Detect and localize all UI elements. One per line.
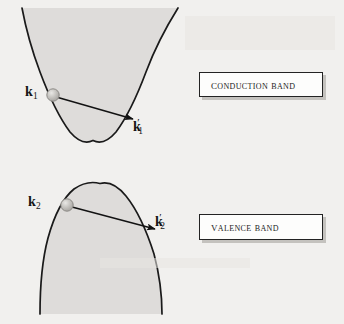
k2-subscript: 2 bbox=[36, 201, 41, 211]
legend-conduction-band: Conduction band bbox=[199, 72, 323, 97]
band-diagram-figure bbox=[0, 0, 344, 324]
label-k1: k1 bbox=[25, 83, 38, 99]
k2-state-marker bbox=[61, 199, 73, 211]
k1-symbol: k bbox=[25, 84, 33, 99]
label-k2: k2 bbox=[28, 193, 41, 209]
conduction-band-group bbox=[22, 8, 178, 142]
k2-prime-subscript: 2 bbox=[160, 221, 165, 231]
k1-subscript: 1 bbox=[33, 91, 38, 101]
k1-prime-subscript: 1 bbox=[138, 126, 143, 136]
k2-symbol: k bbox=[28, 194, 36, 209]
valence-band-group bbox=[40, 183, 162, 314]
legend-conduction-band-label: Conduction band bbox=[211, 77, 295, 93]
label-k1-prime: k′1 bbox=[133, 118, 148, 134]
label-k2-prime: k′2 bbox=[155, 213, 170, 229]
k1-state-marker bbox=[47, 89, 59, 101]
valence-band-fill bbox=[40, 183, 162, 314]
legend-valence-band: Valence band bbox=[199, 214, 323, 240]
conduction-band-fill bbox=[22, 8, 178, 142]
legend-valence-band-label: Valence band bbox=[211, 219, 279, 235]
